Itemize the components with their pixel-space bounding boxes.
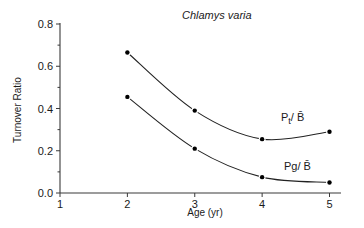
data-point [327, 180, 331, 184]
series-label-pt: Pt/ B̄ [281, 111, 304, 126]
data-point [327, 130, 331, 134]
x-tick-label: 2 [124, 198, 130, 210]
y-tick-label: 0.6 [38, 60, 53, 72]
data-point [193, 108, 197, 112]
data-point [193, 146, 197, 150]
y-tick-label: 0.2 [38, 145, 53, 157]
chart-title: Chlamys varia [182, 9, 252, 21]
data-point [125, 50, 129, 54]
x-axis-title: Age (yr) [187, 207, 223, 218]
y-tick-label: 0.4 [38, 103, 53, 115]
data-point [260, 137, 264, 141]
y-axis-title: Turnover Ratio [12, 77, 23, 143]
data-point [125, 95, 129, 99]
series-label-pt-main: P [281, 111, 288, 123]
x-tick-label: 5 [326, 198, 332, 210]
turnover-ratio-chart: Chlamys varia 0.00.20.40.60.8 12345 Turn… [0, 0, 364, 228]
y-tick-label: 0.0 [38, 187, 53, 199]
data-point [260, 175, 264, 179]
x-tick-label: 1 [57, 198, 63, 210]
y-axis: 0.00.20.40.60.8 [38, 18, 60, 199]
series-label-pg: Pg/ B̄ [284, 160, 311, 172]
y-tick-label: 0.8 [38, 18, 53, 30]
series-label-pt-rest: / B̄ [291, 111, 304, 123]
series-curve-0 [127, 53, 329, 140]
x-tick-label: 4 [259, 198, 265, 210]
